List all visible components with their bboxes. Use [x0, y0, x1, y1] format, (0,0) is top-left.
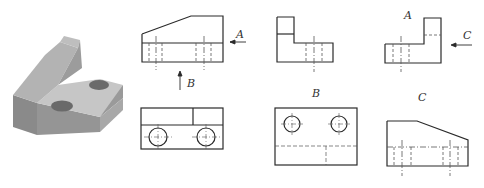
left-view — [277, 17, 333, 72]
bottom-view-b — [275, 108, 357, 165]
view-c-label: C — [418, 92, 426, 103]
view-b-label: B — [312, 88, 320, 99]
right-view-a — [385, 18, 441, 72]
top-view — [141, 108, 223, 150]
rear-view-c — [387, 121, 468, 176]
arrow-b — [178, 71, 182, 90]
drawing-canvas: A B C A B C — [0, 0, 484, 188]
isometric-view — [13, 36, 123, 135]
arrow-b-label: B — [187, 78, 195, 89]
view-a-label: A — [404, 10, 412, 21]
front-view — [142, 16, 223, 70]
arrow-a-label: A — [236, 29, 244, 40]
arrow-c — [451, 43, 472, 47]
arrow-c-label: C — [463, 30, 471, 41]
